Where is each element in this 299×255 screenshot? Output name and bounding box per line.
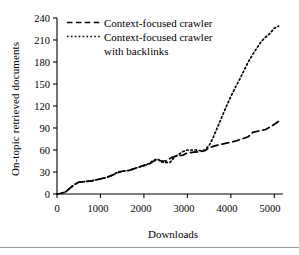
series-line-1 bbox=[57, 26, 279, 194]
plot-svg bbox=[0, 0, 299, 255]
bottom-rule bbox=[0, 247, 299, 248]
legend-swatches bbox=[67, 23, 100, 37]
x-tick-marks bbox=[57, 194, 274, 198]
data-series-layer bbox=[57, 26, 279, 194]
y-tick-marks bbox=[53, 18, 57, 194]
series-line-0 bbox=[57, 121, 279, 194]
figure-container: On-topic retrieved documents Downloads 2… bbox=[0, 0, 299, 255]
axis-lines bbox=[57, 18, 283, 194]
